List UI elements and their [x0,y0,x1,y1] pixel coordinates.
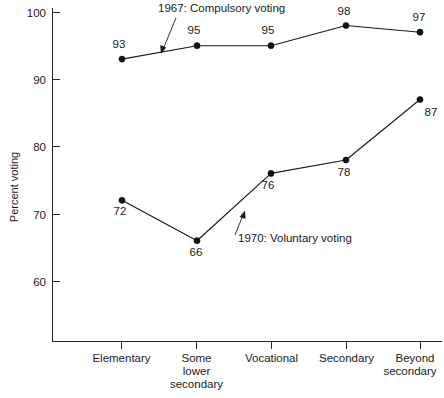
chart-container: 100 90 80 70 60 Percent voting Elementar… [0,0,444,398]
annotation-1970-arrow-head [240,211,246,220]
annotation-1970-label: 1970: Voluntary voting [238,232,352,244]
x-tick-label-beyond: Beyond [395,352,434,364]
series-1970-value-some-lower-secondary: 66 [190,246,203,258]
series-1970-point-vocational [268,170,274,176]
series-1967-point-vocational [268,43,274,49]
y-tick-label-90: 90 [33,74,46,86]
x-tick-label-beyond-secondary: secondary [383,365,436,377]
series-1970-point-beyond-secondary [417,96,423,102]
series-1970-value-elementary: 72 [114,205,127,217]
y-axis: 100 90 80 70 60 Percent voting [8,7,60,342]
x-tick-label-elementary: Elementary [92,352,150,364]
series-1967-point-some-lower-secondary [194,43,200,49]
annotation-1967-arrow-head [160,45,166,54]
y-tick-label-80: 80 [33,141,46,153]
annotation-1967-label: 1967: Compulsory voting [158,2,285,14]
series-1970-point-secondary [343,157,349,163]
x-axis: Elementary Some lower secondary Vocation… [53,342,443,391]
voting-by-education-line-chart: 100 90 80 70 60 Percent voting Elementar… [0,0,444,398]
series-1967-value-vocational: 95 [262,24,275,36]
series-1970-point-some-lower-secondary [194,238,200,244]
x-tick-label-secondary-sub: secondary [170,378,223,390]
x-tick-label-secondary: Secondary [319,352,374,364]
y-tick-label-60: 60 [33,276,46,288]
series-1967-value-some-lower-secondary: 95 [188,24,201,36]
series-1967-point-secondary [343,22,349,28]
series-1970-value-beyond-secondary: 87 [425,106,438,118]
x-tick-label-some: Some [181,352,211,364]
y-axis-title: Percent voting [8,152,20,222]
y-tick-label-100: 100 [27,7,46,19]
series-1967-value-beyond-secondary: 97 [413,11,426,23]
series-1970-point-elementary [119,197,125,203]
series-1967-point-beyond-secondary [417,29,423,35]
series-1967-value-secondary: 98 [338,5,351,17]
series-1970-value-secondary: 78 [338,166,351,178]
x-tick-label-vocational: Vocational [245,352,298,364]
annotation-1967-leader-line [163,18,177,51]
annotation-1970-voluntary-voting: 1970: Voluntary voting [235,211,352,245]
series-1970-value-vocational: 76 [262,179,275,191]
x-tick-label-lower: lower [183,365,211,377]
series-1967-value-elementary: 93 [113,38,126,50]
y-tick-label-70: 70 [33,209,46,221]
series-1967-point-elementary [119,56,125,62]
